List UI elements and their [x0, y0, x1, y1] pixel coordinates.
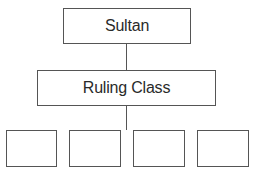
bottom-box-3	[133, 130, 185, 167]
ruling-class-label: Ruling Class	[83, 79, 170, 97]
sultan-label: Sultan	[105, 17, 149, 35]
ruling-class-box: Ruling Class	[37, 70, 216, 106]
sultan-box: Sultan	[63, 8, 191, 44]
bottom-box-1	[6, 130, 57, 167]
connector-sultan-ruling	[126, 44, 128, 70]
bottom-box-2	[69, 130, 121, 167]
connector-ruling-bottom	[126, 106, 128, 130]
bottom-box-4	[197, 130, 249, 167]
